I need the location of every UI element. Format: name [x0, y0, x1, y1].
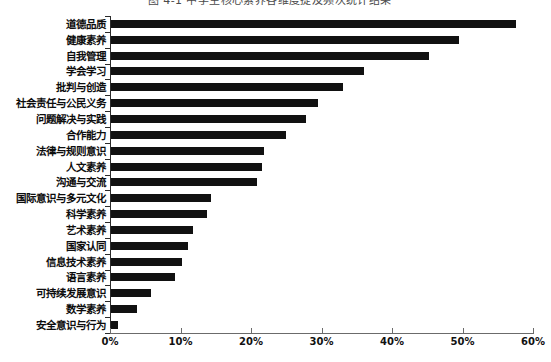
x-axis-tick-label: 60%	[521, 336, 545, 347]
x-axis-tick	[533, 328, 534, 333]
bar-row: 自我管理	[0, 48, 551, 64]
bar-row: 法律与规则意识	[0, 143, 551, 159]
bar-row: 国际意识与多元文化	[0, 190, 551, 206]
y-axis-tick	[105, 64, 110, 65]
bar	[110, 147, 264, 155]
bar	[110, 67, 364, 75]
bar	[110, 194, 211, 202]
x-axis-tick-label: 30%	[310, 336, 334, 347]
bar	[110, 258, 182, 266]
x-axis-tick-label: 10%	[169, 336, 193, 347]
x-axis-tick	[251, 328, 252, 333]
bar-row: 信息技术素养	[0, 254, 551, 270]
bar	[110, 115, 306, 123]
y-axis-tick	[105, 175, 110, 176]
category-label: 社会责任与公民义务	[16, 98, 106, 109]
category-label: 数学素养	[66, 304, 106, 315]
x-axis-tick	[463, 328, 464, 333]
category-label: 批判与创造	[56, 82, 106, 93]
y-axis-tick	[105, 206, 110, 207]
y-axis-tick	[105, 16, 110, 17]
bar-row: 健康素养	[0, 32, 551, 48]
plot-area: 道德品质健康素养自我管理学会学习批判与创造社会责任与公民义务问题解决与实践合作能…	[0, 14, 551, 336]
bar	[110, 210, 207, 218]
y-axis-tick	[105, 317, 110, 318]
y-axis-tick	[105, 48, 110, 49]
category-label: 人文素养	[66, 161, 106, 172]
bar-row: 科学素养	[0, 206, 551, 222]
bar-row: 数学素养	[0, 301, 551, 317]
x-axis-tick	[110, 328, 111, 333]
bar-row: 安全意识与行为	[0, 317, 551, 333]
category-label: 语言素养	[66, 272, 106, 283]
x-axis-tick-label: 40%	[380, 336, 404, 347]
bar-row: 批判与创造	[0, 79, 551, 95]
y-axis-tick	[105, 254, 110, 255]
y-axis-tick	[105, 111, 110, 112]
y-axis-tick	[105, 79, 110, 80]
bar	[110, 52, 429, 60]
bar	[110, 36, 459, 44]
y-axis-tick	[105, 159, 110, 160]
category-label: 安全意识与行为	[36, 320, 106, 331]
figure-title-strip: 图 4-1 中学生核心素养各维度提及频次统计结果	[0, 0, 551, 12]
y-axis-tick	[105, 32, 110, 33]
x-axis-tick	[392, 328, 393, 333]
bar-row: 国家认同	[0, 238, 551, 254]
bar-rows: 道德品质健康素养自我管理学会学习批判与创造社会责任与公民义务问题解决与实践合作能…	[0, 16, 551, 333]
category-label: 合作能力	[66, 130, 106, 141]
category-label: 自我管理	[66, 50, 106, 61]
bar-row: 社会责任与公民义务	[0, 95, 551, 111]
y-axis-tick	[105, 285, 110, 286]
bar-row: 语言素养	[0, 270, 551, 286]
y-axis-tick	[105, 143, 110, 144]
bar-row: 学会学习	[0, 64, 551, 80]
bar-row: 问题解决与实践	[0, 111, 551, 127]
bar-row: 艺术素养	[0, 222, 551, 238]
y-axis-tick	[105, 127, 110, 128]
category-label: 健康素养	[66, 35, 106, 46]
bar	[110, 99, 318, 107]
bar	[110, 20, 516, 28]
bar	[110, 305, 137, 313]
bar	[110, 273, 175, 281]
category-label: 国际意识与多元文化	[16, 193, 106, 204]
category-label: 道德品质	[66, 19, 106, 30]
category-label: 可持续发展意识	[36, 288, 106, 299]
bar-row: 可持续发展意识	[0, 285, 551, 301]
y-axis-tick	[105, 270, 110, 271]
bar	[110, 226, 193, 234]
y-axis-tick	[105, 301, 110, 302]
x-axis-tick	[322, 328, 323, 333]
bar	[110, 242, 188, 250]
x-axis-spine	[110, 333, 534, 334]
y-axis-tick	[105, 222, 110, 223]
y-axis-tick	[105, 238, 110, 239]
bar	[110, 178, 257, 186]
bar-row: 合作能力	[0, 127, 551, 143]
category-label: 信息技术素养	[46, 256, 106, 267]
y-axis-tick	[105, 95, 110, 96]
bar	[110, 163, 262, 171]
category-label: 法律与规则意识	[36, 145, 106, 156]
x-axis-tick-label: 50%	[451, 336, 475, 347]
x-axis-tick-label: 20%	[239, 336, 263, 347]
bar-row: 道德品质	[0, 16, 551, 32]
category-label: 沟通与交流	[56, 177, 106, 188]
bar	[110, 321, 118, 329]
x-axis-tick	[181, 328, 182, 333]
category-label: 学会学习	[66, 66, 106, 77]
bar	[110, 289, 151, 297]
y-axis-tick	[105, 190, 110, 191]
figure-title: 图 4-1 中学生核心素养各维度提及频次统计结果	[148, 0, 392, 7]
chart-figure: 图 4-1 中学生核心素养各维度提及频次统计结果 道德品质健康素养自我管理学会学…	[0, 0, 551, 362]
bar-row: 沟通与交流	[0, 174, 551, 190]
category-label: 国家认同	[66, 240, 106, 251]
bar	[110, 131, 286, 139]
category-label: 艺术素养	[66, 225, 106, 236]
y-axis-spine	[110, 16, 111, 333]
bar-row: 人文素养	[0, 159, 551, 175]
bar	[110, 83, 343, 91]
category-label: 科学素养	[66, 209, 106, 220]
x-axis-tick-label: 0%	[102, 336, 119, 347]
